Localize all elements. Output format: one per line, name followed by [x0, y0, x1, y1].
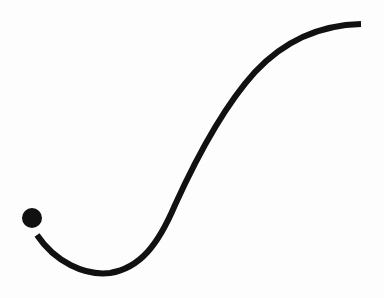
start-dot [22, 208, 42, 228]
curve-diagram [0, 0, 384, 298]
s-curve-stroke [37, 24, 361, 273]
figure-canvas: Single S-shaped stroke curve with a fill… [0, 0, 384, 298]
